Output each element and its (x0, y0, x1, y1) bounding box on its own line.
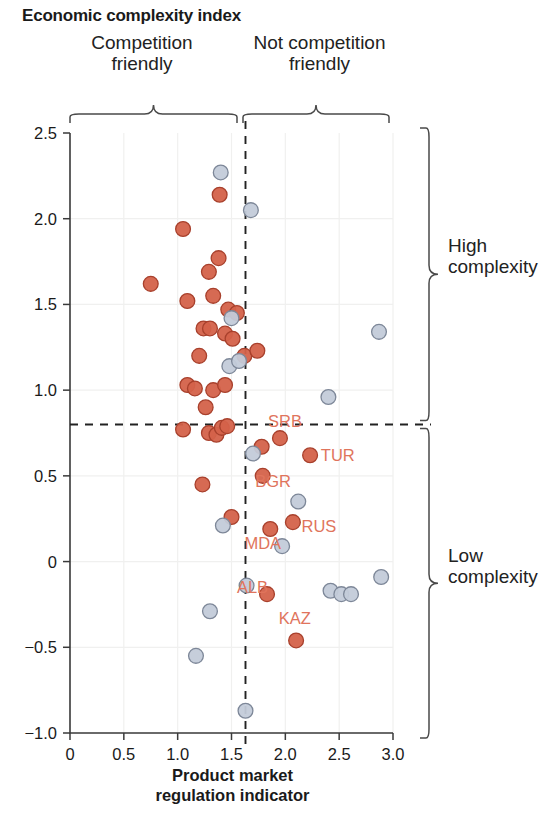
x-axis-tick-labels: 00.51.01.52.02.53.0 (65, 745, 404, 763)
scatter-point-other (203, 604, 218, 619)
y-tick-label: 0.5 (34, 467, 57, 485)
bracket-annotations (70, 105, 438, 738)
scatter-point-other (238, 703, 253, 718)
gridlines (70, 133, 393, 733)
scatter-point-highlighted (225, 331, 240, 346)
scatter-point-highlighted (201, 264, 216, 279)
y-tick-label: 1.5 (34, 295, 57, 313)
x-tick-label: 2.0 (274, 745, 297, 763)
x-tick-label: 3.0 (382, 745, 405, 763)
scatter-point-highlighted (195, 477, 210, 492)
scatter-point-other (246, 446, 261, 461)
y-tick-label: 0 (48, 553, 57, 571)
country-label-kaz: KAZ (279, 609, 311, 627)
scatter-point-highlighted (143, 276, 158, 291)
x-tick-label: 0 (65, 745, 74, 763)
y-tick-label: 2.0 (34, 210, 57, 228)
scatter-point-other (215, 518, 230, 533)
scatter-point-highlighted (289, 633, 304, 648)
scatter-point-highlighted (198, 400, 213, 415)
y-tick-label: −1.0 (24, 724, 57, 742)
country-label-tur: TUR (321, 446, 355, 464)
country-label-bgr: BGR (255, 472, 291, 490)
scatter-point-other (291, 494, 306, 509)
country-label-srb: SRB (268, 412, 302, 430)
scatter-point-highlighted (250, 343, 265, 358)
y-tick-label: 2.5 (34, 124, 57, 142)
y-tick-label: 1.0 (34, 381, 57, 399)
x-tick-label: 1.0 (166, 745, 189, 763)
scatter-point-highlighted (203, 321, 218, 336)
scatter-point-other (374, 570, 389, 585)
country-label-rus: RUS (301, 517, 336, 535)
country-label-mda: MDA (244, 534, 281, 552)
scatter-point-highlighted (285, 515, 300, 530)
scatter-point-other (232, 354, 247, 369)
scatter-point-highlighted (303, 448, 318, 463)
country-label-alb: ALB (237, 578, 268, 596)
scatter-point-highlighted (176, 222, 191, 237)
x-tick-label: 2.5 (328, 745, 351, 763)
scatter-point-other (243, 203, 258, 218)
scatter-point-highlighted (176, 422, 191, 437)
y-axis-tick-labels: 2.52.01.51.00.50−0.5−1.0 (24, 124, 57, 742)
scatter-point-other (189, 648, 204, 663)
scatter-point-other (213, 165, 228, 180)
scatter-point-other (224, 311, 239, 326)
scatter-point-highlighted (273, 431, 288, 446)
scatter-point-highlighted (220, 419, 235, 434)
plot-canvas: 00.51.01.52.02.53.0 2.52.01.51.00.50−0.5… (0, 0, 552, 831)
economic-complexity-scatter-chart: Economic complexity index Competition fr… (0, 0, 552, 831)
y-tick-label: −0.5 (24, 638, 57, 656)
scatter-point-highlighted (211, 251, 226, 266)
axes (63, 133, 393, 740)
scatter-point-highlighted (180, 294, 195, 309)
scatter-point-highlighted (206, 288, 221, 303)
x-tick-label: 1.5 (220, 745, 243, 763)
scatter-point-highlighted (187, 381, 202, 396)
scatter-point-highlighted (192, 348, 207, 363)
scatter-point-highlighted (212, 187, 227, 202)
scatter-point-other (372, 324, 387, 339)
scatter-point-highlighted (218, 378, 233, 393)
data-points (143, 165, 388, 718)
scatter-point-other (344, 587, 359, 602)
x-tick-label: 0.5 (112, 745, 135, 763)
scatter-point-other (321, 390, 336, 405)
